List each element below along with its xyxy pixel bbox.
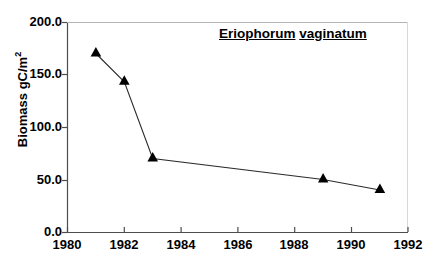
data-markers	[91, 47, 386, 193]
y-axis-ticks	[62, 23, 67, 233]
data-point-marker	[147, 152, 158, 162]
data-point-marker	[318, 173, 328, 183]
data-point-marker	[375, 184, 386, 194]
data-point-marker	[119, 75, 130, 85]
plot-area	[0, 0, 432, 265]
data-point-marker	[91, 47, 102, 57]
chart-figure: Biomass gC/m2 200.0 150.0 100.0 50.0 0.0…	[0, 0, 432, 265]
data-line	[96, 54, 380, 191]
x-axis-ticks	[68, 227, 409, 232]
